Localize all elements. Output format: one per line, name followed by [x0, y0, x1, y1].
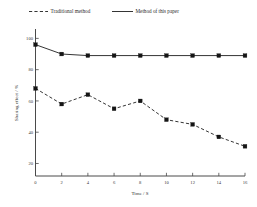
data-point-traditional-method-8: [138, 99, 142, 103]
data-point-traditional-method-14: [217, 135, 221, 139]
x-tick-label-0: 0: [34, 180, 37, 185]
data-point-traditional-method-10: [165, 118, 169, 122]
x-tick-label-4: 4: [87, 180, 90, 185]
data-point-method-of-this-paper-4: [86, 54, 90, 58]
y-tick-label-80: 80: [28, 67, 33, 72]
x-tick-label-12: 12: [190, 180, 195, 185]
data-point-traditional-method-4: [86, 93, 90, 97]
chart-legend: Traditional method Method of this paper: [29, 8, 179, 14]
y-tick-label-100: 100: [26, 36, 34, 41]
x-tick-label-14: 14: [217, 180, 222, 185]
x-axis-ticks: 0246810121416: [34, 173, 248, 185]
data-point-method-of-this-paper-10: [165, 54, 169, 58]
data-point-traditional-method-12: [191, 122, 195, 126]
y-tick-label-40: 40: [28, 130, 33, 135]
chart-series: [34, 43, 247, 148]
x-tick-label-6: 6: [113, 180, 116, 185]
x-tick-label-10: 10: [164, 180, 169, 185]
data-point-method-of-this-paper-6: [112, 54, 116, 58]
y-axis-title: Sharing effect / %: [14, 85, 19, 121]
data-point-method-of-this-paper-0: [34, 43, 38, 47]
y-tick-label-60: 60: [28, 99, 33, 104]
data-point-method-of-this-paper-2: [60, 52, 64, 56]
x-tick-label-2: 2: [61, 180, 64, 185]
line-chart: Traditional method Method of this paper …: [0, 0, 257, 207]
data-point-method-of-this-paper-12: [191, 54, 195, 58]
y-tick-label-20: 20: [28, 161, 33, 166]
chart-figure: Traditional method Method of this paper …: [0, 0, 257, 207]
data-point-traditional-method-0: [34, 87, 38, 91]
data-point-traditional-method-6: [112, 107, 116, 111]
data-point-traditional-method-2: [60, 102, 64, 106]
legend-label-method-of-this-paper: Method of this paper: [136, 8, 180, 14]
x-tick-label-16: 16: [243, 180, 248, 185]
y-axis-ticks: 20406080100: [26, 36, 39, 166]
x-axis-title: Time / S: [131, 191, 148, 196]
data-point-method-of-this-paper-14: [217, 54, 221, 58]
data-point-method-of-this-paper-16: [243, 54, 247, 58]
data-point-method-of-this-paper-8: [138, 54, 142, 58]
data-point-traditional-method-16: [243, 144, 247, 148]
legend-label-traditional-method: Traditional method: [51, 8, 91, 14]
x-tick-label-8: 8: [139, 180, 142, 185]
series-line-traditional-method: [36, 88, 246, 146]
